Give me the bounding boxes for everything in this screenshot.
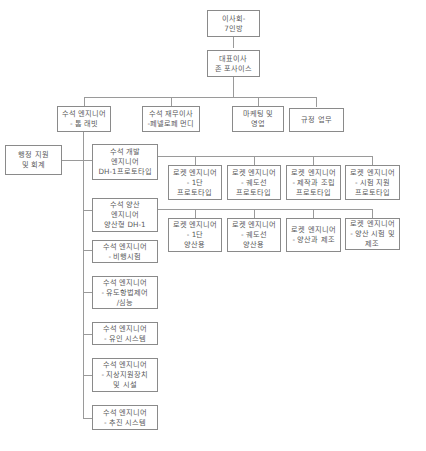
connector (233, 77, 234, 97)
rocket-stage1-prototype-node: 로켓 엔지니어 - 1단 프로토타입 (168, 165, 222, 200)
propulsion-node: 수석 엔지니어 - 추진 시스템 (92, 405, 158, 430)
connector (195, 156, 196, 165)
gnc-node: 수석 엔지니어 - 유도항법제어 /심능 (92, 276, 158, 309)
admin-node: 행정 지원 및 회계 (5, 145, 62, 175)
connector (83, 334, 92, 335)
flight-test-node: 수석 엔지니어 - 비행시험 (92, 240, 158, 263)
rocket-assembly-prototype-node: 로켓 엔지니어 - 제작과 조립 프로토타입 (286, 165, 341, 200)
connector (84, 97, 316, 98)
rocket-manufacturing-node: 로켓 엔지니어 - 양산과 제조 (286, 218, 341, 252)
connector (195, 209, 196, 218)
connector (233, 36, 234, 48)
rocket-test-prototype-node: 로켓 엔지니어 - 시험 지원 프로토타입 (345, 165, 400, 200)
dev-engineer-node: 수석 개발 엔지니어 DH-1프로토타입 (92, 144, 158, 180)
connector (254, 156, 255, 165)
ceo-node: 대표이사 존 포사이스 (207, 50, 260, 77)
cfo-node: 수석 재무이사 -페넬로페 먼디 (142, 106, 200, 132)
connector (372, 156, 373, 165)
board-node: 이사회- 7인방 (207, 10, 260, 37)
connector (62, 160, 92, 161)
rocket-orbiter-prototype-node: 로켓 엔지니어 - 궤도선 프로토타입 (227, 165, 281, 200)
production-engineer-node: 수석 양산 엔지니어 양산형 DH-1 (92, 198, 158, 232)
connector (158, 156, 372, 157)
ground-support-node: 수석 엔지니어 - 지상지원장치 및 시설 (92, 358, 158, 392)
rocket-orbiter-production-node: 로켓 엔지니어 - 궤도선 양산용 (227, 218, 281, 252)
connector (316, 97, 317, 107)
connector (83, 418, 92, 419)
connector (83, 210, 92, 211)
connector (83, 292, 92, 293)
chief-engineer-node: 수석 엔지니어 - 톰 래빗 (57, 106, 111, 132)
connector (83, 375, 92, 376)
connector (313, 209, 314, 218)
connector (83, 250, 92, 251)
crew-systems-node: 수석 엔지니어 - 유인 시스템 (92, 322, 158, 345)
marketing-node: 마케팅 및 영업 (232, 106, 284, 132)
connector (313, 156, 314, 165)
regulatory-node: 규정 업무 (289, 108, 344, 132)
rocket-stage1-production-node: 로켓 엔지니어 - 1단 양산용 (168, 218, 222, 252)
connector (372, 209, 373, 218)
connector (254, 209, 255, 218)
rocket-production-test-node: 로켓 엔지니어 - 양산 시험 및 제조 (345, 218, 400, 250)
connector (158, 209, 372, 210)
